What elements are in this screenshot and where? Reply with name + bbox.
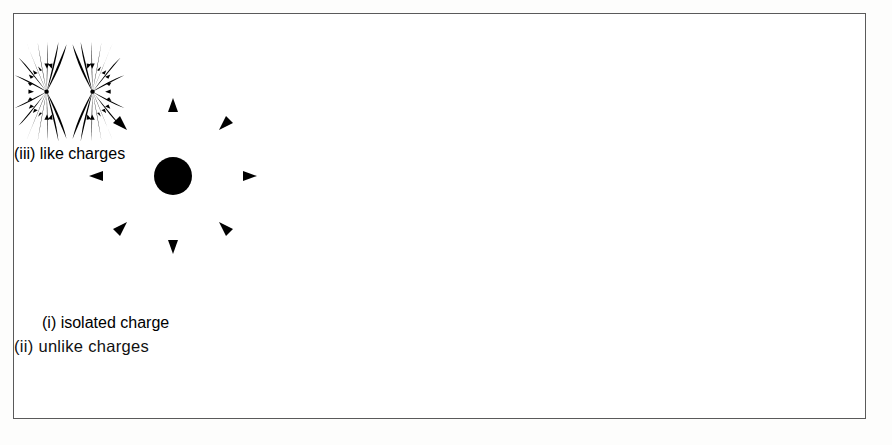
like-charge-field-group [14,42,125,141]
like-charges-diagram [14,42,125,145]
panel-like-charges: (iii) like charges [14,42,125,362]
charge-node-positive-left [44,89,48,93]
figure-border: (i) isolated charge [13,13,866,419]
panel-caption-like: (iii) like charges [14,145,125,163]
charge-node-positive-right [90,89,94,93]
charge-label-positive-left [55,89,59,93]
charge-label-positive-right [80,89,84,93]
charge-positive-circled [154,157,192,195]
figure-page: (i) isolated charge [0,0,892,445]
